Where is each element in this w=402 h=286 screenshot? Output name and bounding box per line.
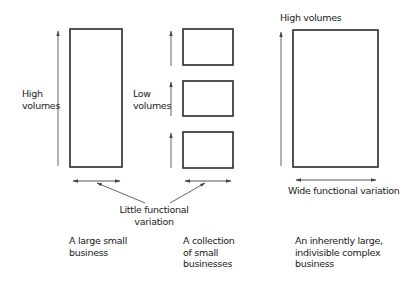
business-box [183,81,233,116]
business-box [70,29,122,167]
little-functional-variation-label: Little functional variation [110,204,198,227]
caption-inherently-large-business: An inherently large, indivisible complex… [295,235,383,270]
low-volumes-label: Low volumes [133,88,171,111]
panel-large-small-business [58,29,122,181]
business-box [183,29,233,65]
pointer-line [170,183,205,203]
annotation-pointers [97,183,205,203]
wide-functional-variation-label: Wide functional variation [288,185,400,197]
panel-collection-small-businesses [171,29,233,181]
business-box [183,132,233,168]
pointer-line [97,183,145,203]
high-volumes-top-label: High volumes [280,12,341,24]
caption-collection-small-businesses: A collection of small businesses [183,235,235,270]
high-volumes-label: High volumes [22,88,60,111]
caption-large-small-business: A large small business [69,235,127,258]
panel-inherently-large-business [281,30,378,180]
business-box [293,30,378,167]
